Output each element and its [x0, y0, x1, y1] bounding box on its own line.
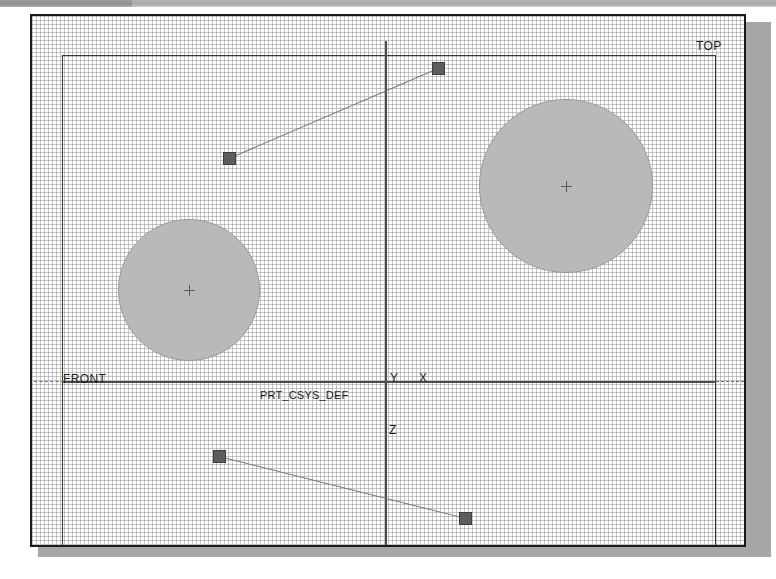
label-front-view: FRONT	[63, 372, 106, 386]
label-axis-x: X	[419, 371, 427, 385]
datum-plane-right-line[interactable]	[385, 41, 387, 545]
toolbar-strip[interactable]	[0, 0, 776, 7]
marker-lower-left[interactable]	[213, 450, 226, 463]
right-circular-feature[interactable]	[479, 99, 653, 273]
toolbar-strip-left-segment[interactable]	[0, 0, 132, 7]
marker-upper-left[interactable]	[223, 152, 236, 165]
marker-lower-right[interactable]	[459, 512, 472, 525]
datum-front-extension-right	[716, 381, 744, 382]
cad-screenshot: TOP FRONT PRT_CSYS_DEF Y X Z	[0, 0, 776, 579]
label-axis-z: Z	[389, 423, 396, 437]
label-csys-name: PRT_CSYS_DEF	[260, 389, 348, 401]
datum-front-extension-left	[34, 381, 64, 382]
csys-tick-z	[386, 383, 387, 425]
csys-tick-x	[387, 382, 417, 383]
marker-upper-right[interactable]	[432, 62, 445, 75]
label-top-view: TOP	[696, 39, 722, 53]
left-circular-feature[interactable]	[118, 219, 260, 361]
graphics-window[interactable]: TOP FRONT PRT_CSYS_DEF Y X Z	[30, 14, 746, 547]
